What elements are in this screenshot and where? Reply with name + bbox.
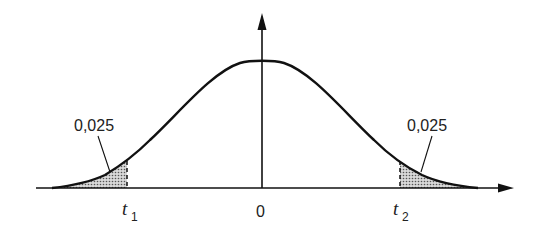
right-leader-line bbox=[421, 136, 432, 172]
t2-symbol: t bbox=[393, 198, 399, 219]
left-leader-line bbox=[98, 136, 110, 172]
distribution-diagram: 0,025 0,025 0 t 1 t 2 bbox=[0, 0, 536, 233]
origin-label: 0 bbox=[256, 203, 265, 220]
t1-symbol: t bbox=[122, 198, 128, 219]
t1-subscript: 1 bbox=[131, 210, 138, 224]
right-tail-area-label: 0,025 bbox=[407, 117, 447, 134]
x-axis-arrow-icon bbox=[498, 184, 514, 193]
left-tail-region bbox=[52, 161, 127, 188]
y-axis-arrow-icon bbox=[258, 13, 267, 30]
t2-subscript: 2 bbox=[402, 210, 409, 224]
left-tail-area-label: 0,025 bbox=[74, 117, 114, 134]
